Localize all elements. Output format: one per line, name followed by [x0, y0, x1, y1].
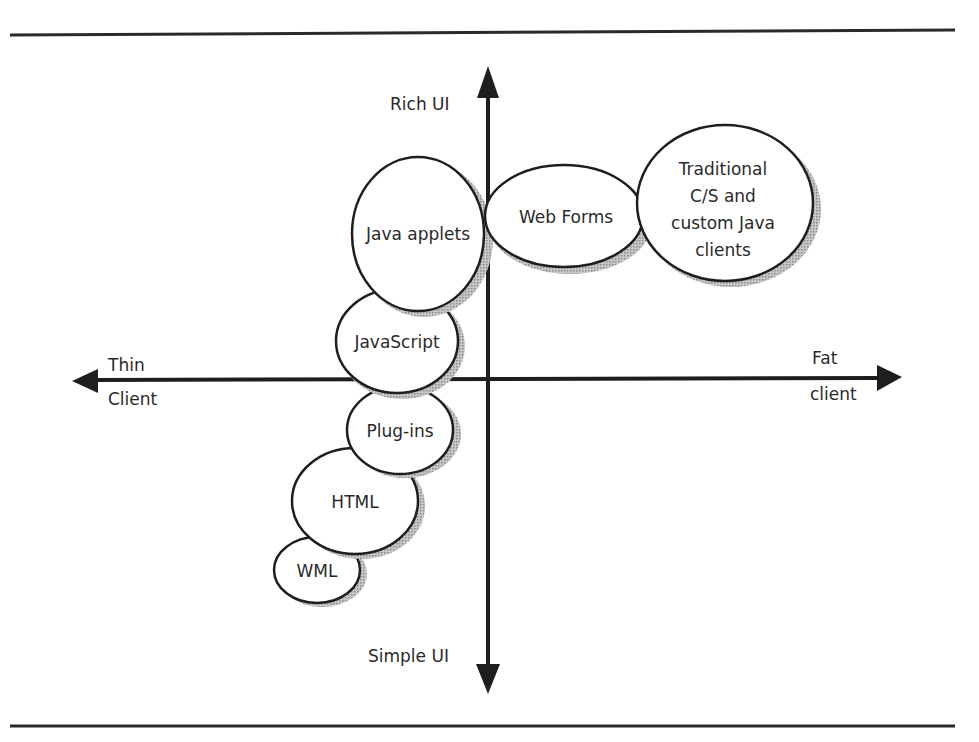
bubble-label: C/S and — [690, 186, 756, 206]
x-axis-left-label-2: Client — [108, 389, 158, 409]
top-rule — [10, 30, 955, 35]
thin-fat-client-diagram: Rich UI Simple UI Thin Client Fat client… — [0, 0, 979, 742]
bubble-label: Traditional — [678, 159, 768, 179]
arrow-up-icon — [477, 66, 499, 98]
bubble-web-forms: Web Forms — [485, 165, 652, 274]
bubble-traditional-clients: Traditional C/S and custom Java clients — [637, 125, 821, 287]
arrow-down-icon — [476, 664, 500, 694]
x-axis-left-label-1: Thin — [107, 355, 145, 375]
bubble-label: JavaScript — [353, 332, 440, 352]
bubble-label: Web Forms — [519, 207, 613, 227]
bubble-label: WML — [297, 561, 338, 581]
bubble-label: HTML — [331, 492, 379, 512]
bubble-label: clients — [695, 240, 751, 260]
x-axis-right-label-2: client — [810, 384, 857, 404]
y-axis-top-label: Rich UI — [390, 94, 450, 114]
bubble-label: Plug-ins — [366, 421, 433, 441]
bubble-label: custom Java — [671, 213, 775, 233]
x-axis-right-label-1: Fat — [812, 348, 838, 368]
arrow-left-icon — [72, 369, 98, 393]
bubble-label: Java applets — [365, 224, 470, 244]
arrow-right-icon — [877, 365, 902, 391]
y-axis-bottom-label: Simple UI — [368, 646, 449, 666]
